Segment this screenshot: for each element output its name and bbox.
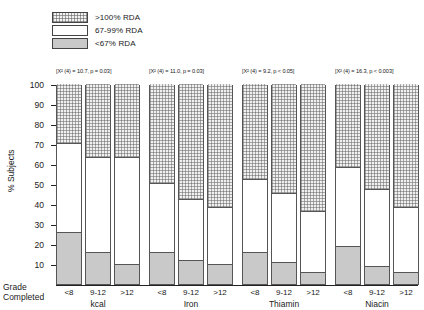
bar-iron->12[interactable] — [207, 85, 233, 285]
x-tick-label-<8: <8 — [335, 288, 361, 297]
x-tick-label->12: >12 — [300, 288, 326, 297]
x-axis-title: Grade Completed — [3, 282, 44, 302]
segment-67-99 — [301, 212, 325, 272]
segment-above-100 — [365, 84, 389, 190]
x-tick-label-9-12: 9-12 — [364, 288, 390, 297]
x-axis-line — [56, 285, 418, 286]
y-tick-label-90: 90 — [35, 100, 44, 110]
x-tick-label-<8: <8 — [149, 288, 175, 297]
bar-thiamin-<8[interactable] — [242, 85, 268, 285]
bar-niacin->12[interactable] — [393, 85, 419, 285]
x-tick-label->12: >12 — [114, 288, 140, 297]
segment-67-99 — [57, 144, 81, 232]
bar-kcal->12[interactable] — [114, 85, 140, 285]
group-name-label: kcal — [56, 299, 140, 309]
swatch-solid-gray-icon — [52, 38, 88, 49]
swatch-hatched-icon — [52, 12, 88, 23]
segment-67-99 — [394, 208, 418, 272]
segment-above-100 — [115, 84, 139, 158]
segment-below-67 — [208, 264, 232, 284]
bar-group-iron: [X² (4) = 11.0, p = 0.03]<89-12>12Iron — [149, 85, 237, 285]
bar-niacin-<8[interactable] — [335, 85, 361, 285]
segment-below-67 — [243, 252, 267, 284]
x-tick-label-<8: <8 — [242, 288, 268, 297]
group-name-label: Niacin — [335, 299, 419, 309]
segment-67-99 — [150, 184, 174, 252]
x-tick-label->12: >12 — [393, 288, 419, 297]
segment-above-100 — [394, 84, 418, 208]
y-tick-label-10: 10 — [35, 260, 44, 270]
swatch-white-icon — [52, 25, 88, 36]
chart-legend: >100% RDA 67-99% RDA <67% RDA — [52, 11, 143, 50]
bar-thiamin->12[interactable] — [300, 85, 326, 285]
segment-below-67 — [301, 272, 325, 284]
y-tick-label-30: 30 — [35, 220, 44, 230]
segment-above-100 — [272, 84, 296, 194]
segment-below-67 — [365, 266, 389, 284]
segment-above-100 — [57, 84, 81, 144]
x-axis-title-line1: Grade — [3, 282, 44, 292]
segment-below-67 — [115, 264, 139, 284]
legend-label-67-99: 67-99% RDA — [95, 26, 143, 35]
segment-67-99 — [365, 190, 389, 266]
bar-group-niacin: [X² (4) = 16.3, p < 0.003]<89-12>12Niaci… — [335, 85, 423, 285]
y-tick-label-40: 40 — [35, 200, 44, 210]
group-stat-annotation: [X² (4) = 10.7, p = 0.03] — [56, 68, 111, 74]
bar-niacin-9-12[interactable] — [364, 85, 390, 285]
group-stat-annotation: [X² (4) = 9.2, p < 0.05] — [242, 68, 294, 74]
segment-below-67 — [86, 252, 110, 284]
segment-67-99 — [179, 200, 203, 260]
bar-thiamin-9-12[interactable] — [271, 85, 297, 285]
segment-below-67 — [150, 252, 174, 284]
legend-item-above-100: >100% RDA — [52, 11, 143, 23]
legend-label-above-100: >100% RDA — [95, 13, 140, 22]
segment-above-100 — [243, 84, 267, 180]
x-tick-label->12: >12 — [207, 288, 233, 297]
segment-above-100 — [86, 84, 110, 158]
segment-above-100 — [179, 84, 203, 200]
legend-label-below-67: <67% RDA — [95, 39, 136, 48]
x-tick-label-9-12: 9-12 — [271, 288, 297, 297]
y-tick-label-60: 60 — [35, 160, 44, 170]
segment-67-99 — [115, 158, 139, 264]
segment-above-100 — [301, 84, 325, 212]
bar-iron-9-12[interactable] — [178, 85, 204, 285]
plot-area: 102030405060708090100 [X² (4) = 10.7, p … — [56, 85, 418, 285]
segment-67-99 — [86, 158, 110, 252]
segment-67-99 — [208, 208, 232, 264]
chart-figure: >100% RDA 67-99% RDA <67% RDA % Subjects… — [0, 0, 424, 310]
segment-below-67 — [336, 246, 360, 284]
x-tick-label-9-12: 9-12 — [178, 288, 204, 297]
bar-kcal-<8[interactable] — [56, 85, 82, 285]
group-stat-annotation: [X² (4) = 11.0, p = 0.03] — [149, 68, 204, 74]
segment-above-100 — [336, 84, 360, 168]
y-tick-label-70: 70 — [35, 140, 44, 150]
segment-67-99 — [336, 168, 360, 246]
x-axis-title-line2: Completed — [3, 292, 44, 302]
segment-below-67 — [179, 260, 203, 284]
segment-67-99 — [243, 180, 267, 252]
y-tick-label-20: 20 — [35, 240, 44, 250]
bar-group-thiamin: [X² (4) = 9.2, p < 0.05]<89-12>12Thiamin — [242, 85, 330, 285]
segment-below-67 — [272, 262, 296, 284]
legend-item-below-67: <67% RDA — [52, 37, 143, 49]
bar-kcal-9-12[interactable] — [85, 85, 111, 285]
group-name-label: Iron — [149, 299, 233, 309]
y-tick-label-100: 100 — [30, 80, 44, 90]
group-name-label: Thiamin — [242, 299, 326, 309]
legend-item-67-99: 67-99% RDA — [52, 24, 143, 36]
y-tick-label-80: 80 — [35, 120, 44, 130]
bar-iron-<8[interactable] — [149, 85, 175, 285]
x-tick-label-9-12: 9-12 — [85, 288, 111, 297]
group-stat-annotation: [X² (4) = 16.3, p < 0.003] — [335, 68, 393, 74]
segment-67-99 — [272, 194, 296, 262]
y-axis-title: % Subjects — [6, 149, 16, 192]
segment-below-67 — [394, 272, 418, 284]
y-tick-label-50: 50 — [35, 180, 44, 190]
x-tick-label-<8: <8 — [56, 288, 82, 297]
segment-above-100 — [208, 84, 232, 208]
bar-group-kcal: [X² (4) = 10.7, p = 0.03]<89-12>12kcal — [56, 85, 144, 285]
segment-above-100 — [150, 84, 174, 184]
segment-below-67 — [57, 232, 81, 284]
